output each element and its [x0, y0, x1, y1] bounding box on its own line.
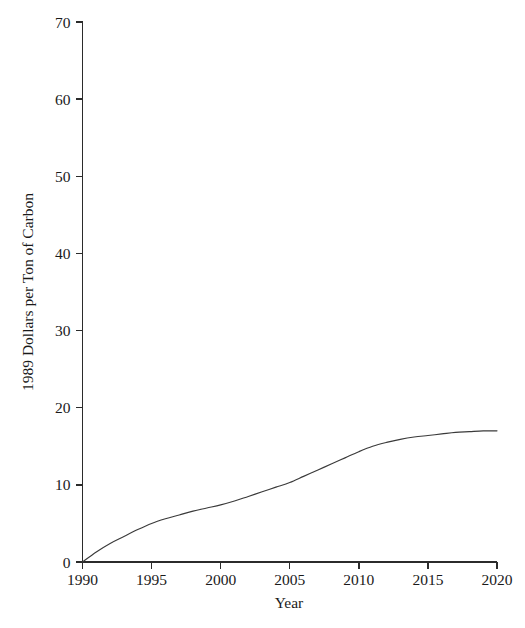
chart-figure: 010203040506070 199019952000200520102015…	[0, 0, 525, 628]
y-tick-label: 30	[55, 322, 71, 339]
y-tick-label: 10	[55, 476, 71, 493]
x-tick-label: 2010	[343, 571, 374, 588]
x-tick-label: 2005	[274, 571, 305, 588]
y-axis-ticks	[76, 22, 83, 562]
x-tick-label: 1990	[67, 571, 98, 588]
x-tick-label: 2000	[205, 571, 236, 588]
y-axis-tick-labels: 010203040506070	[55, 14, 71, 571]
x-axis-tick-labels: 1990199520002005201020152020	[67, 571, 513, 588]
y-tick-label: 0	[63, 554, 71, 571]
y-tick-label: 50	[55, 168, 71, 185]
line-chart: 010203040506070 199019952000200520102015…	[0, 0, 525, 628]
y-tick-label: 20	[55, 399, 71, 416]
data-series-group	[83, 431, 498, 562]
x-tick-label: 2015	[412, 571, 443, 588]
y-axis-title: 1989 Dollars per Ton of Carbon	[19, 193, 36, 391]
data-line-carbon-price	[83, 431, 498, 562]
y-tick-label: 60	[55, 91, 71, 108]
y-tick-label: 40	[55, 245, 71, 262]
x-axis-ticks	[83, 562, 498, 569]
y-tick-label: 70	[55, 14, 71, 31]
x-axis-title: Year	[275, 594, 304, 611]
x-tick-label: 2020	[482, 571, 513, 588]
x-tick-label: 1995	[136, 571, 167, 588]
